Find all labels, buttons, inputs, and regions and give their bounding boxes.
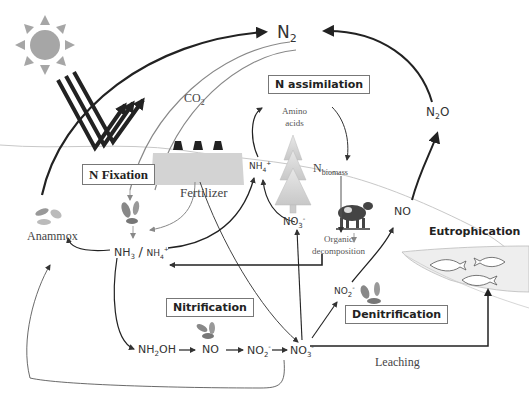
anammox-label: Anammox xyxy=(27,230,78,242)
fertilizer-to-no3-arrow xyxy=(200,182,298,342)
nh2oh-label: NH2OH xyxy=(138,344,176,357)
eutrophication-label: Eutrophication xyxy=(429,226,520,237)
water-body-icon xyxy=(402,246,529,308)
leaching-label: Leaching xyxy=(375,356,420,368)
sunlight-rays-icon xyxy=(58,72,143,148)
bacteria-icon xyxy=(34,207,63,225)
no3-bottom-label: NO3- xyxy=(290,344,314,359)
n2-label: N2 xyxy=(277,24,297,44)
no2-mid-label: NO2- xyxy=(247,344,271,359)
amino-acids-label: Amino acids xyxy=(282,106,307,129)
organic-decomposition-label: Organic decomposition xyxy=(312,234,365,257)
n-fixation-box: N Fixation xyxy=(82,164,155,185)
cow-icon xyxy=(336,202,373,230)
bacteria-icon xyxy=(195,322,215,339)
sun-icon xyxy=(15,15,75,75)
decomposition-to-nh4-arrow xyxy=(170,254,322,265)
nh4-upper-label: NH4+ xyxy=(249,160,271,173)
factory-icon xyxy=(151,141,244,185)
no-to-n2o-arrow xyxy=(412,134,437,200)
no-right-label: NO xyxy=(394,206,411,217)
nh3-nh4-label: NH3 / NH4+ xyxy=(114,245,169,260)
bacteria-icon xyxy=(359,282,381,304)
n-assimilation-box: N assimilation xyxy=(268,75,370,94)
co2-label: CO2 xyxy=(184,92,205,107)
diagram-graphics xyxy=(0,0,529,403)
nitrogen-cycle-diagram: N2 N2O CO2 N Fixation N assimilation Fer… xyxy=(0,0,529,403)
n2o-label: N2O xyxy=(426,106,449,121)
nbiomass-label: Nbiomass xyxy=(313,162,348,177)
bacteria-icon xyxy=(120,201,141,224)
denitrification-box: Denitrification xyxy=(345,305,448,324)
fertilizer-label: Fertilizer xyxy=(180,186,228,199)
tree-icon xyxy=(275,135,311,213)
no2-to-anammox-arrow xyxy=(27,265,285,388)
no-mid-label: NO xyxy=(202,344,219,355)
no3-upper-label: NO3- xyxy=(283,216,305,230)
no2-denit-label: NO2- xyxy=(334,285,355,299)
nitrification-box: Nitrification xyxy=(166,298,254,317)
